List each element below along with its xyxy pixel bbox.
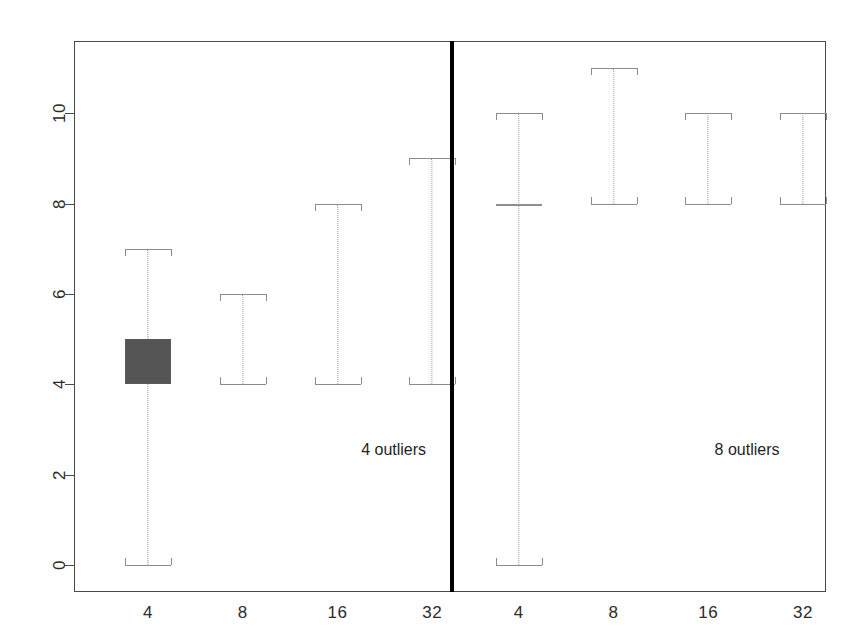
whisker-cap-lower (685, 204, 731, 205)
whisker-cap-lower-stem-right (637, 197, 638, 204)
whisker-cap-upper-stem-right (731, 113, 732, 120)
whisker-line (337, 204, 338, 385)
whisker-cap-lower-stem-left (685, 197, 686, 204)
whisker-cap-upper-stem-right (266, 294, 267, 301)
x-tick-label-right-panel-8: 8 (609, 603, 619, 623)
x-tick-label-right-panel-4: 4 (514, 603, 524, 623)
whisker-cap-upper-stem-left (125, 249, 126, 256)
whisker-cap-lower (409, 384, 455, 385)
x-tick-label-left-panel-4: 4 (143, 603, 153, 623)
whisker-cap-upper-stem-left (315, 204, 316, 211)
whisker-cap-lower (496, 565, 542, 566)
whisker-line (518, 113, 519, 565)
y-tick-label: 2 (50, 475, 70, 485)
whisker-cap-lower-stem-right (731, 197, 732, 204)
y-tick-label-text: 0 (50, 560, 70, 570)
whisker-line (147, 249, 148, 565)
y-tick-label-text: 6 (50, 289, 70, 299)
whisker-cap-upper-stem-right (171, 249, 172, 256)
x-tick-label-left-panel-32: 32 (422, 603, 442, 623)
whisker-cap-lower (315, 384, 361, 385)
y-tick-label: 8 (50, 204, 70, 214)
whisker-cap-upper (496, 113, 542, 114)
whisker-cap-lower-stem-left (591, 197, 592, 204)
whisker-cap-upper (591, 68, 637, 69)
whisker-line (432, 158, 433, 384)
whisker-cap-upper (315, 204, 361, 205)
whisker-cap-lower-stem-right (171, 558, 172, 565)
whisker-line (802, 113, 803, 203)
y-tick-label: 4 (50, 384, 70, 394)
whisker-cap-upper (409, 158, 455, 159)
y-tick-label-text: 4 (50, 379, 70, 389)
panel-divider (450, 41, 454, 592)
y-tick-label: 0 (50, 565, 70, 575)
whisker-cap-lower (591, 204, 637, 205)
whisker-cap-lower-stem-left (315, 377, 316, 384)
x-tick-label-left-panel-16: 16 (328, 603, 348, 623)
whisker-cap-upper (780, 113, 826, 114)
whisker-cap-upper-stem-right (542, 113, 543, 120)
whisker-cap-upper-stem-left (409, 158, 410, 165)
whisker-cap-upper-stem-right (826, 113, 827, 120)
whisker-cap-upper-stem-right (637, 68, 638, 75)
y-tick-label-text: 10 (50, 103, 70, 123)
whisker-cap-upper-stem-right (361, 204, 362, 211)
box-iqr (125, 339, 171, 384)
whisker-line (613, 68, 614, 203)
whisker-cap-lower-stem-right (826, 197, 827, 204)
whisker-cap-lower-stem-left (125, 558, 126, 565)
whisker-cap-upper-stem-left (496, 113, 497, 120)
whisker-cap-lower (125, 565, 171, 566)
whisker-cap-lower (780, 204, 826, 205)
whisker-cap-upper-stem-left (591, 68, 592, 75)
x-tick-label-left-panel-8: 8 (238, 603, 248, 623)
y-tick-label: 6 (50, 294, 70, 304)
whisker-cap-upper-stem-left (685, 113, 686, 120)
whisker-cap-upper (220, 294, 266, 295)
whisker-cap-lower-stem-left (780, 197, 781, 204)
whisker-cap-lower-stem-right (361, 377, 362, 384)
whisker-cap-lower-stem-left (409, 377, 410, 384)
boxplot-figure: 0246810 4 outliers8 outliers 48163248163… (0, 0, 866, 634)
panel-annotation-right-panel: 8 outliers (715, 441, 780, 459)
whisker-cap-upper-stem-left (780, 113, 781, 120)
whisker-cap-lower-stem-right (542, 558, 543, 565)
whisker-cap-lower-stem-left (496, 558, 497, 565)
whisker-line (708, 113, 709, 203)
whisker-line (242, 294, 243, 384)
y-tick-label: 10 (50, 113, 70, 133)
whisker-cap-lower (220, 384, 266, 385)
whisker-cap-upper (685, 113, 731, 114)
whisker-cap-upper (125, 249, 171, 250)
whisker-cap-lower-stem-left (220, 377, 221, 384)
x-tick-label-right-panel-32: 32 (793, 603, 813, 623)
x-axis: 481632481632 (74, 592, 826, 634)
whisker-cap-lower-stem-right (455, 377, 456, 384)
whisker-cap-upper-stem-left (220, 294, 221, 301)
x-tick-label-right-panel-16: 16 (698, 603, 718, 623)
y-tick-label-text: 2 (50, 470, 70, 480)
whisker-cap-upper-stem-right (455, 158, 456, 165)
y-tick-label-text: 8 (50, 199, 70, 209)
panel-annotation-left-panel: 4 outliers (361, 441, 426, 459)
box-median-line (496, 204, 542, 206)
y-axis: 0246810 (0, 41, 74, 592)
whisker-cap-lower-stem-right (266, 377, 267, 384)
